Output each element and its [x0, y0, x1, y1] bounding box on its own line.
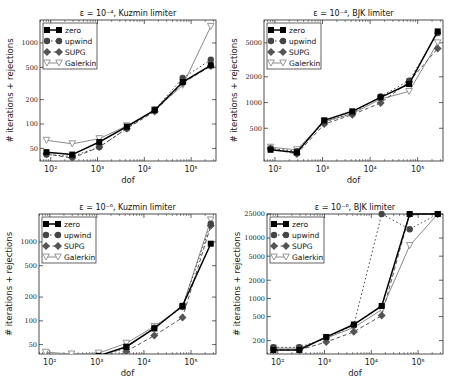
data-point-zero: [208, 241, 214, 247]
x-axis-label: dof: [121, 368, 136, 378]
y-axis-label: # iterations + rejections: [4, 231, 14, 336]
data-point-upwind: [378, 211, 384, 217]
y-tick-label: 100: [25, 317, 37, 325]
y-tick-label: 200: [253, 337, 265, 345]
legend-label-zero: zero: [64, 220, 80, 229]
y-tick-label: 1000: [248, 295, 265, 303]
data-point-upwind: [406, 226, 412, 232]
chart-title: ε = 10⁻⁶, BJK limiter: [315, 203, 396, 212]
legend-label-upwind: upwind: [289, 37, 316, 46]
x-axis-label: dof: [121, 175, 136, 185]
data-point-zero: [123, 344, 129, 350]
legend-label-galerkin: Galerkin: [289, 59, 321, 68]
legend-marker-upwind: [44, 38, 50, 44]
data-point-zero: [180, 79, 186, 85]
legend-label-upwind: upwind: [65, 37, 92, 46]
chart-title: ε = 10⁻⁶, Kuzmin limiter: [79, 203, 176, 212]
data-point-zero: [379, 303, 385, 309]
figure: 10²10³10⁴10⁵501002005001000ε = 10⁻⁴, Kuz…: [0, 0, 455, 386]
legend-marker-upwind: [283, 232, 289, 238]
legend-marker-upwind: [56, 38, 62, 44]
x-tick-label: 10⁵: [184, 165, 197, 174]
x-tick-label: 10³: [91, 165, 104, 174]
data-point-supg: [67, 363, 75, 371]
legend: zeroupwindSUPGGalerkin: [42, 217, 96, 263]
data-point-zero: [68, 361, 74, 367]
legend: zeroupwindSUPGGalerkin: [43, 23, 97, 69]
legend-label-galerkin: Galerkin: [292, 253, 324, 262]
legend: zeroupwindSUPGGalerkin: [270, 217, 324, 263]
legend-label-zero: zero: [292, 220, 308, 229]
y-axis-label: # iterations + rejections: [232, 231, 242, 336]
legend: zeroupwindSUPGGalerkin: [267, 23, 321, 69]
data-point-upwind: [208, 57, 214, 63]
data-point-zero: [406, 81, 412, 87]
legend-label-galerkin: Galerkin: [64, 253, 96, 262]
y-axis-label: # iterations + rejections: [229, 38, 239, 143]
data-point-zero: [124, 124, 130, 130]
y-tick-label: 500: [253, 313, 265, 321]
data-point-zero: [43, 149, 49, 155]
y-tick-label: 500: [25, 262, 37, 270]
x-tick-label: 10⁴: [137, 358, 150, 367]
legend-marker-upwind: [55, 232, 61, 238]
x-axis-label: dof: [347, 175, 362, 185]
y-tick-label: 100: [26, 120, 38, 128]
legend-marker-zero: [283, 221, 289, 227]
data-point-zero: [180, 303, 186, 309]
x-tick-label: 10⁴: [365, 358, 378, 367]
legend-marker-zero: [271, 221, 277, 227]
legend-marker-zero: [44, 27, 50, 33]
y-tick-label: 50: [30, 145, 38, 153]
y-tick-label: 1000: [20, 238, 37, 246]
x-tick-label: 10⁵: [411, 165, 424, 174]
legend-label-supg: SUPG: [64, 242, 85, 251]
x-tick-label: 10⁵: [411, 358, 424, 367]
chart-panel-3: 10²10³10⁴10⁵501002005001000ε = 10⁻⁶, Kuz…: [4, 203, 216, 378]
legend-marker-upwind: [280, 38, 286, 44]
data-point-zero: [321, 117, 327, 123]
legend-label-galerkin: Galerkin: [65, 59, 97, 68]
x-tick-label: 10⁴: [363, 165, 376, 174]
legend-marker-zero: [280, 27, 286, 33]
chart-panel-4: 10²10³10⁴10⁵2005001000200050001000025000…: [232, 203, 443, 378]
chart-title: ε = 10⁻⁴, Kuzmin limiter: [80, 9, 177, 18]
y-tick-label: 50: [29, 341, 37, 349]
data-point-zero: [435, 28, 441, 34]
data-point-zero: [96, 139, 102, 145]
x-tick-label: 10²: [44, 165, 57, 174]
y-tick-label: 200: [26, 96, 38, 104]
data-point-upwind: [208, 221, 214, 227]
y-tick-label: 25000: [244, 210, 265, 218]
legend-label-zero: zero: [65, 26, 81, 35]
legend-marker-zero: [56, 27, 62, 33]
y-tick-label: 1000: [21, 39, 38, 47]
data-point-zero: [407, 211, 413, 217]
y-tick-label: 500: [250, 125, 262, 133]
chart-panel-2: 10²10³10⁴10⁵500100020005000ε = 10⁻⁴, BJK…: [229, 9, 443, 185]
x-tick-label: 10⁴: [138, 165, 151, 174]
x-tick-label: 10³: [316, 165, 329, 174]
x-tick-label: 10³: [90, 358, 103, 367]
y-axis-label: # iterations + rejections: [5, 38, 15, 143]
legend-marker-zero: [43, 221, 49, 227]
data-point-zero: [378, 94, 384, 100]
legend-label-supg: SUPG: [289, 48, 310, 57]
legend-label-zero: zero: [289, 26, 305, 35]
x-tick-label: 10²: [43, 358, 56, 367]
legend-marker-upwind: [271, 232, 277, 238]
data-point-zero: [296, 347, 302, 353]
y-tick-label: 200: [25, 293, 37, 301]
data-point-zero: [151, 325, 157, 331]
legend-marker-upwind: [43, 232, 49, 238]
chart-title: ε = 10⁻⁴, BJK limiter: [313, 9, 394, 18]
chart-panel-1: 10²10³10⁴10⁵501002005001000ε = 10⁻⁴, Kuz…: [5, 9, 216, 185]
data-point-zero: [268, 147, 274, 153]
y-tick-label: 2000: [248, 277, 265, 285]
data-point-zero: [69, 152, 75, 158]
legend-marker-zero: [268, 27, 274, 33]
data-point-zero: [294, 150, 300, 156]
data-point-zero: [208, 62, 214, 68]
y-tick-label: 5000: [248, 253, 265, 261]
data-point-zero: [152, 107, 158, 113]
